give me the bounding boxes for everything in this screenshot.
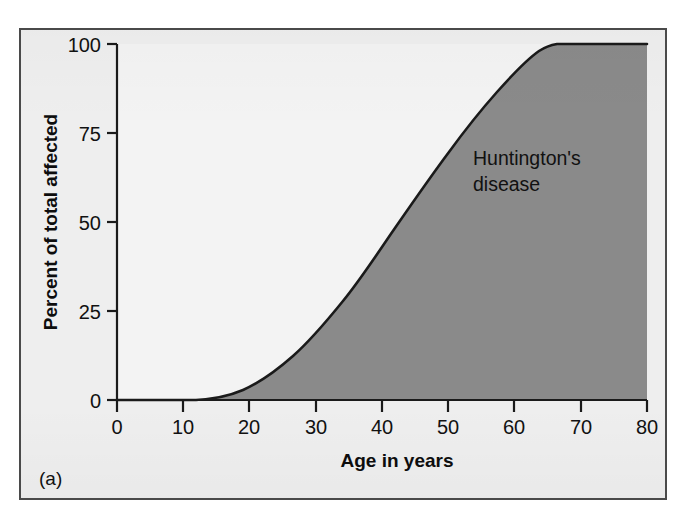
chart-plot: 0 25 50 75 100 0 10 20 30 40 50 60 70 80… [21,30,669,502]
x-tick-label-30: 30 [305,416,327,438]
figure-panel: 0 25 50 75 100 0 10 20 30 40 50 60 70 80… [19,28,667,500]
x-tick-label-0: 0 [111,416,122,438]
x-axis-title: Age in years [341,450,454,471]
x-tick-label-70: 70 [570,416,592,438]
x-tick-label-60: 60 [503,416,525,438]
y-tick-label-0: 0 [90,390,101,412]
y-tick-label-25: 25 [79,301,101,323]
x-tick-label-80: 80 [636,416,658,438]
y-tick-label-75: 75 [79,123,101,145]
huntingtons-annotation-line2: disease [473,173,540,195]
huntingtons-annotation-line1: Huntington's [473,147,581,169]
panel-label: (a) [39,468,62,489]
x-tick-label-20: 20 [238,416,260,438]
y-tick-label-50: 50 [79,212,101,234]
y-tick-label-100: 100 [68,34,101,56]
x-tick-label-40: 40 [371,416,393,438]
x-tick-label-10: 10 [172,416,194,438]
x-tick-label-50: 50 [437,416,459,438]
y-axis-title: Percent of total affected [40,114,61,330]
